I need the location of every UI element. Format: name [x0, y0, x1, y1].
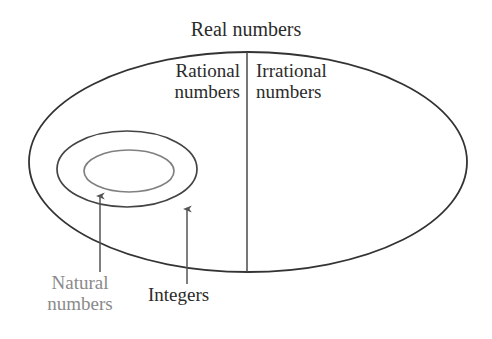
- label-real-numbers: Real numbers: [0, 18, 492, 40]
- label-integers: Integers: [148, 284, 268, 305]
- label-irrational-line2: numbers: [256, 81, 406, 102]
- label-rational-numbers: Rational numbers: [112, 60, 240, 103]
- label-natural-line2: numbers: [16, 293, 144, 314]
- label-natural-line1: Natural: [16, 272, 144, 293]
- label-rational-line1: Rational: [112, 60, 240, 81]
- label-irrational-numbers: Irrational numbers: [256, 60, 406, 103]
- label-irrational-line1: Irrational: [256, 60, 406, 81]
- label-rational-line2: numbers: [112, 81, 240, 102]
- middle-ellipse-integers: [57, 131, 197, 207]
- number-sets-diagram: Real numbers Rational numbers Irrational…: [0, 0, 492, 339]
- inner-ellipse-natural-numbers: [84, 150, 174, 192]
- label-natural-numbers: Natural numbers: [16, 272, 144, 315]
